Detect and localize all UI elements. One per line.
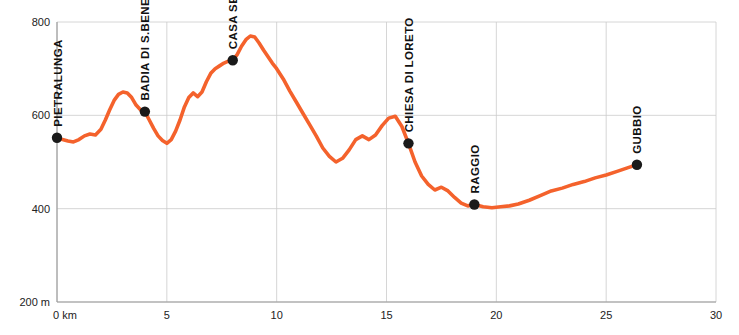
poi-marker: [469, 199, 479, 209]
y-axis-tick-labels: 200 m400600800: [19, 16, 50, 308]
poi-marker: [632, 160, 642, 170]
y-tick-label: 400: [32, 203, 50, 215]
poi-label: CHIESA DI LORETO: [403, 17, 415, 132]
elevation-profile-chart: 200 m400600800 0 km51015202530 PIETRALUN…: [0, 0, 739, 335]
y-tick-label: 200 m: [19, 296, 50, 308]
poi-label: CASA SESSE: [227, 0, 239, 49]
x-tick-label: 5: [164, 309, 170, 321]
x-tick-label: 20: [490, 309, 502, 321]
x-tick-label: 15: [380, 309, 392, 321]
x-tick-label: 30: [710, 309, 722, 321]
x-tick-label: 25: [600, 309, 612, 321]
x-tick-label: 0 km: [53, 309, 77, 321]
x-tick-label: 10: [271, 309, 283, 321]
x-axis-tick-labels: 0 km51015202530: [53, 309, 722, 321]
gridlines: [57, 22, 716, 302]
poi-label: GUBBIO: [631, 105, 643, 153]
poi-label: PIETRALUNGA: [52, 39, 64, 126]
poi-marker: [140, 106, 150, 116]
elevation-chart-svg: 200 m400600800 0 km51015202530 PIETRALUN…: [0, 0, 739, 335]
poi-label: RAGGIO: [469, 144, 481, 193]
points-of-interest: PIETRALUNGABADIA DI S.BENEDETTOCASA SESS…: [52, 0, 644, 210]
poi-marker: [228, 55, 238, 65]
poi-marker: [52, 133, 62, 143]
poi-label: BADIA DI S.BENEDETTO: [139, 0, 151, 101]
y-tick-label: 800: [32, 16, 50, 28]
y-tick-label: 600: [32, 109, 50, 121]
poi-marker: [403, 138, 413, 148]
